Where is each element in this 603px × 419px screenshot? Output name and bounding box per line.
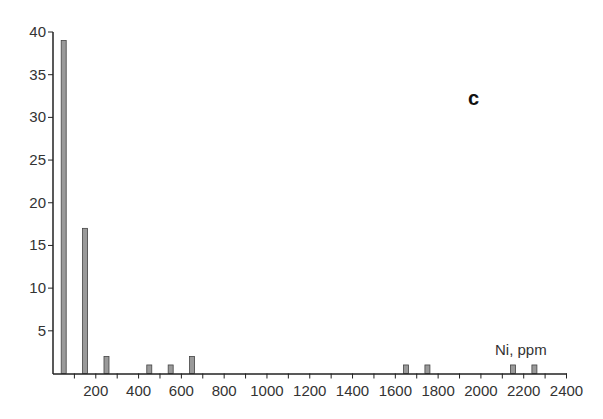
bar [532, 365, 537, 374]
bar [104, 356, 109, 373]
y-ticks: 510152025303540 [29, 23, 53, 339]
bar [83, 228, 88, 373]
x-tick-label: 1200 [293, 382, 326, 399]
y-tick-label: 10 [29, 279, 46, 296]
x-tick-label: 600 [169, 382, 194, 399]
bar [404, 365, 409, 374]
x-tick-label: 800 [212, 382, 237, 399]
panel-label: c [468, 87, 479, 109]
x-tick-label: 400 [126, 382, 151, 399]
x-tick-label: 1000 [250, 382, 283, 399]
y-tick-label: 30 [29, 108, 46, 125]
y-tick-label: 15 [29, 236, 46, 253]
x-tick-label: 1400 [336, 382, 369, 399]
histogram-chart: 510152025303540 200400600800100012001400… [0, 0, 603, 419]
y-tick-label: 35 [29, 66, 46, 83]
bar [425, 365, 430, 374]
x-tick-label: 2000 [464, 382, 497, 399]
bar [168, 365, 173, 374]
y-tick-label: 25 [29, 151, 46, 168]
bar [61, 41, 66, 374]
bar [190, 356, 195, 373]
x-tick-label: 1600 [379, 382, 412, 399]
x-tick-label: 2400 [550, 382, 583, 399]
bar [147, 365, 152, 374]
y-tick-label: 20 [29, 194, 46, 211]
x-axis-title: Ni, ppm [495, 341, 547, 358]
x-tick-label: 1800 [421, 382, 454, 399]
bar [511, 365, 516, 374]
x-tick-label: 2200 [507, 382, 540, 399]
bars [61, 41, 537, 374]
x-ticks: 2004006008001000120014001600180020002200… [74, 374, 583, 399]
y-tick-label: 40 [29, 23, 46, 40]
x-tick-label: 200 [83, 382, 108, 399]
y-tick-label: 5 [38, 322, 46, 339]
